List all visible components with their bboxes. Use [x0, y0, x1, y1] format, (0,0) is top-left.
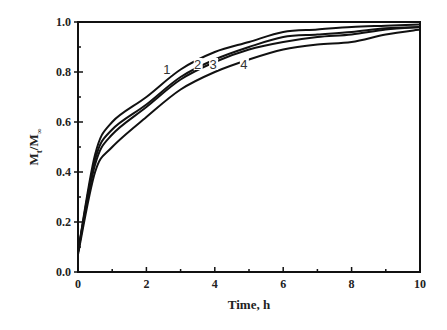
x-axis: 0246810 — [75, 267, 426, 291]
y-tick-label: 0.2 — [56, 215, 71, 229]
x-axis-title: Time, h — [228, 297, 271, 312]
y-title-mid: /M — [26, 134, 41, 151]
curve-label-2: 2 — [194, 57, 201, 72]
series-line-4 — [78, 30, 420, 255]
y-title-sub2: ∞ — [35, 128, 44, 134]
x-tick-label: 6 — [280, 277, 286, 291]
x-tick-label: 8 — [349, 277, 355, 291]
series-line-3 — [78, 27, 420, 252]
x-tick-label: 0 — [75, 277, 81, 291]
y-title-main: M — [26, 153, 41, 165]
y-tick-label: 0.4 — [56, 165, 71, 179]
x-tick-label: 10 — [414, 277, 426, 291]
data-series — [78, 25, 420, 255]
curve-label-1: 1 — [163, 62, 170, 77]
y-axis-title: Mt/M∞ — [26, 128, 44, 165]
x-tick-label: 4 — [212, 277, 218, 291]
y-tick-label: 1.0 — [56, 15, 71, 29]
svg-text:Mt/M∞: Mt/M∞ — [26, 128, 44, 165]
curve-label-3: 3 — [209, 57, 216, 72]
x-tick-label: 2 — [143, 277, 149, 291]
y-tick-label: 0.8 — [56, 65, 71, 79]
y-tick-label: 0.6 — [56, 115, 71, 129]
curve-label-4: 4 — [240, 57, 247, 72]
chart: 0246810 0.00.20.40.60.81.0 1234 Time, h … — [0, 0, 447, 330]
y-tick-label: 0.0 — [56, 265, 71, 279]
series-line-2 — [78, 27, 420, 252]
